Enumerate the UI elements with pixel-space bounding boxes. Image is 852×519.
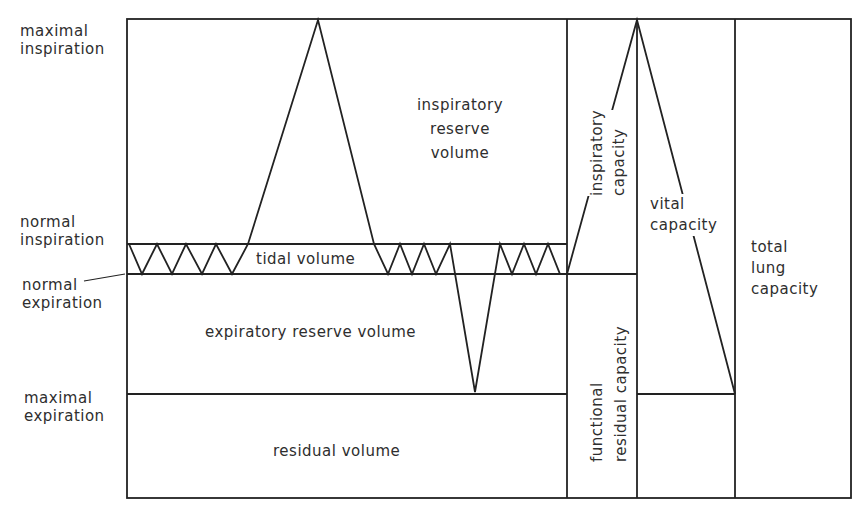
- diagram-frame: [127, 19, 851, 498]
- label-total-lung-capacity: total lung capacity: [751, 237, 818, 300]
- label-maximal-inspiration: maximal inspiration: [20, 22, 105, 58]
- label-residual-volume: residual volume: [273, 442, 400, 460]
- label-functional-residual-capacity: functional residual capacity: [585, 326, 633, 462]
- label-vital-capacity: vital capacity: [648, 194, 719, 236]
- label-maximal-expiration: maximal expiration: [24, 389, 105, 425]
- label-normal-expiration: normal expiration: [22, 276, 103, 312]
- spirogram-diagram: [0, 0, 852, 519]
- label-inspiratory-reserve-volume: inspiratory reserve volume: [400, 96, 520, 162]
- label-expiratory-reserve-volume: expiratory reserve volume: [205, 323, 416, 341]
- label-normal-inspiration: normal inspiration: [20, 213, 105, 249]
- label-inspiratory-capacity: inspiratory capacity: [586, 110, 630, 196]
- label-tidal-volume: tidal volume: [254, 250, 357, 268]
